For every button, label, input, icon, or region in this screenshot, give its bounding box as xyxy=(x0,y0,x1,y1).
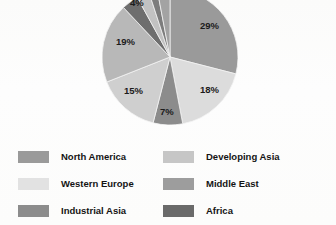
legend-item-middle-east: Middle East xyxy=(163,170,280,197)
pie-chart-figure: 29% 18% 7% 15% 19% 4% North America West… xyxy=(0,0,336,225)
legend-label-middle-east: Middle East xyxy=(206,178,259,189)
chart-plot-area: 29% 18% 7% 15% 19% 4% xyxy=(0,0,336,140)
legend-item-western-europe: Western Europe xyxy=(18,170,134,197)
legend-column-right: Developing Asia Middle East Africa xyxy=(163,143,280,224)
legend-item-north-america: North America xyxy=(18,143,134,170)
legend-label-western-europe: Western Europe xyxy=(61,178,134,189)
legend-item-africa: Africa xyxy=(163,197,280,224)
slice-label-developing-asia: 15% xyxy=(124,85,143,96)
legend-label-industrial-asia: Industrial Asia xyxy=(61,205,126,216)
legend-item-developing-asia: Developing Asia xyxy=(163,143,280,170)
legend-swatch-middle-east xyxy=(163,178,194,190)
legend-label-africa: Africa xyxy=(206,205,233,216)
legend-swatch-industrial-asia xyxy=(18,205,49,217)
legend-item-industrial-asia: Industrial Asia xyxy=(18,197,134,224)
chart-legend: North America Western Europe Industrial … xyxy=(0,143,336,225)
legend-swatch-north-america xyxy=(18,151,49,163)
slice-label-western-europe: 18% xyxy=(200,84,219,95)
slice-label-north-america: 29% xyxy=(200,20,219,31)
legend-swatch-western-europe xyxy=(18,178,49,190)
legend-label-developing-asia: Developing Asia xyxy=(206,151,280,162)
legend-column-left: North America Western Europe Industrial … xyxy=(18,143,134,224)
legend-label-north-america: North America xyxy=(61,151,126,162)
slice-label-middle-east: 19% xyxy=(116,36,135,47)
slice-label-industrial-asia: 7% xyxy=(160,106,174,117)
legend-swatch-africa xyxy=(163,205,194,217)
slice-label-africa: 4% xyxy=(130,0,144,8)
legend-swatch-developing-asia xyxy=(163,151,194,163)
